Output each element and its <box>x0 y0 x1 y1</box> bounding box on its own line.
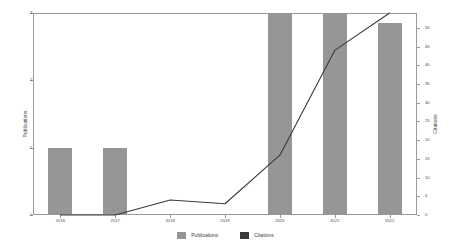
right-tick-label: 0 <box>425 213 427 217</box>
x-tick-label: 2020 <box>275 219 284 223</box>
legend-item-citations[interactable]: Citations <box>240 232 273 239</box>
line-series-citations <box>33 13 417 215</box>
right-tick-label: 5 <box>425 194 427 198</box>
right-tick-label: 30 <box>425 101 430 105</box>
chart-legend: Publications Citations <box>0 232 451 239</box>
right-tick-mark <box>417 103 420 104</box>
legend-label-citations: Citations <box>254 233 273 238</box>
right-tick-mark <box>417 178 420 179</box>
x-tick-label: 2016 <box>56 219 65 223</box>
publications-citations-chart: Publications Citations 0123 051015202530… <box>0 0 451 247</box>
right-tick-label: 10 <box>425 175 430 179</box>
right-tick-mark <box>417 196 420 197</box>
right-tick-mark <box>417 159 420 160</box>
plot-area: 0123 05101520253035404550 20162017201820… <box>33 13 417 215</box>
legend-swatch-publications <box>177 232 186 239</box>
legend-swatch-citations <box>240 232 249 239</box>
right-tick-label: 25 <box>425 119 430 123</box>
right-tick-mark <box>417 121 420 122</box>
right-tick-label: 50 <box>425 26 430 30</box>
x-tick-label: 2022 <box>385 219 394 223</box>
legend-item-publications[interactable]: Publications <box>177 232 218 239</box>
right-tick-label: 35 <box>425 82 430 86</box>
right-tick-label: 20 <box>425 138 430 142</box>
right-tick-mark <box>417 28 420 29</box>
right-tick-label: 40 <box>425 63 430 67</box>
x-tick-label: 2021 <box>330 219 339 223</box>
right-tick-mark <box>417 215 420 216</box>
x-tick-label: 2017 <box>111 219 120 223</box>
right-tick-mark <box>417 84 420 85</box>
x-tick-label: 2019 <box>220 219 229 223</box>
y-axis-title-publications: Publications <box>23 110 28 137</box>
y2-axis-title-citations: Citations <box>433 114 438 133</box>
right-tick-mark <box>417 65 420 66</box>
right-tick-label: 45 <box>425 45 430 49</box>
legend-label-publications: Publications <box>191 233 218 238</box>
right-tick-mark <box>417 47 420 48</box>
x-tick-label: 2018 <box>165 219 174 223</box>
right-tick-label: 15 <box>425 157 430 161</box>
right-tick-mark <box>417 140 420 141</box>
